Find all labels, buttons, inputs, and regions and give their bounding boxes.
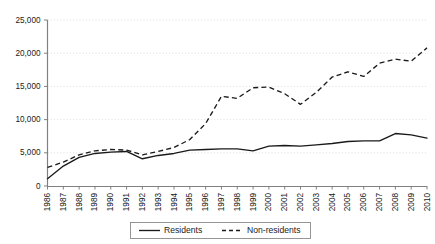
x-tick-label: 2005: [343, 193, 352, 212]
x-tick-label: 1989: [90, 193, 99, 212]
x-tick-label: 1991: [122, 193, 131, 212]
y-axis: 05,00010,00015,00020,00025,000: [15, 16, 47, 191]
data-series-group: [48, 48, 428, 179]
y-tick-label: 5,000: [20, 148, 41, 157]
series-line-residents: [48, 134, 428, 179]
y-tick-label: 20,000: [15, 49, 40, 58]
x-tick-label: 1995: [185, 193, 194, 212]
x-tick-label: 2006: [359, 193, 368, 212]
x-tick-label: 1990: [106, 193, 115, 212]
legend-label-residents: Residents: [164, 225, 202, 235]
y-tick-labels: 05,00010,00015,00020,00025,000: [15, 16, 40, 191]
x-tick-label: 1999: [249, 193, 258, 212]
x-tick-label: 1987: [59, 193, 68, 212]
x-tick-label: 2001: [280, 193, 289, 212]
x-tick-label: 2004: [328, 193, 337, 212]
chart-legend: Residents Non-residents: [131, 223, 311, 239]
x-tick-label: 1993: [154, 193, 163, 212]
x-tick-label: 1996: [201, 193, 210, 212]
x-tick-label: 1988: [75, 193, 84, 212]
legend-label-non-residents: Non-residents: [247, 225, 301, 235]
x-tick-label: 1992: [138, 193, 147, 212]
x-tick-label: 2000: [264, 193, 273, 212]
x-tick-label: 1994: [170, 193, 179, 212]
x-tick-label: 1997: [217, 193, 226, 212]
gridlines-group: [48, 20, 428, 153]
x-tick-label: 2002: [296, 193, 305, 212]
x-tick-label: 2003: [312, 193, 321, 212]
x-tick-label: 1986: [43, 193, 52, 212]
line-chart: 05,00010,00015,00020,00025,000 198619871…: [0, 0, 435, 244]
y-tick-label: 10,000: [15, 115, 40, 124]
x-axis: 1986198719881989199019911992199319941995…: [43, 186, 432, 211]
x-tick-label: 2007: [375, 193, 384, 212]
x-tick-label: 2008: [391, 193, 400, 212]
y-tick-label: 0: [36, 182, 41, 191]
chart-container: 05,00010,00015,00020,00025,000 198619871…: [0, 0, 435, 244]
x-tick-label: 1998: [233, 193, 242, 212]
x-tick-label: 2009: [407, 193, 416, 212]
x-tick-labels: 1986198719881989199019911992199319941995…: [43, 193, 432, 212]
x-tick-label: 2010: [423, 193, 432, 212]
y-tick-label: 25,000: [15, 16, 40, 25]
y-tick-label: 15,000: [15, 82, 40, 91]
